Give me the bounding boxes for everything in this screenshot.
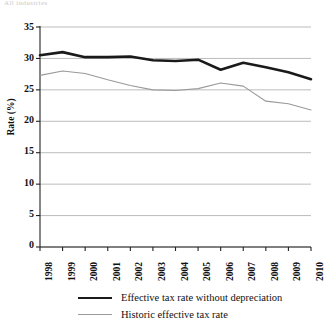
x-axis-tick-labels: 1998199920002001200220032004200520062007…	[0, 0, 324, 329]
x-tick-label: 2001	[112, 262, 122, 281]
x-tick-label: 2010	[315, 262, 324, 281]
x-tick-label: 2004	[180, 262, 190, 281]
x-tick-label: 1998	[44, 262, 54, 281]
chart-legend: Effective tax rate without depreciation …	[0, 289, 324, 323]
x-tick-label: 2008	[270, 262, 280, 281]
x-tick-label: 2007	[247, 262, 257, 281]
x-tick-label: 2006	[225, 262, 235, 281]
legend-item: Effective tax rate without depreciation	[0, 289, 324, 306]
x-tick-label: 2000	[89, 262, 99, 281]
legend-item: Historic effective tax rate	[0, 306, 324, 323]
x-tick-label: 2003	[157, 262, 167, 281]
legend-label: Effective tax rate without depreciation	[121, 292, 282, 303]
legend-label: Historic effective tax rate	[121, 309, 228, 320]
legend-line-swatch-thin	[78, 314, 112, 315]
x-tick-label: 1999	[67, 262, 77, 281]
x-tick-label: 2005	[202, 262, 212, 281]
legend-line-swatch-thick	[78, 297, 112, 299]
x-tick-label: 2002	[134, 262, 144, 281]
chart-figure: All industries Rate (%) 35 30 25 20 15 1…	[0, 0, 324, 329]
x-tick-label: 2009	[292, 262, 302, 281]
